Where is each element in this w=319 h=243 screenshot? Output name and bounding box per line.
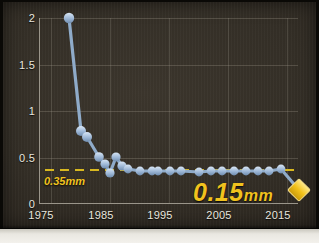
x-tick-2005: 2005	[206, 209, 231, 221]
data-point	[154, 167, 163, 176]
y-tick-2: 2	[29, 12, 35, 24]
y-tick-0-5: 0.5	[19, 152, 35, 164]
x-axis-labels: 1975 1985 1995 2005 2015	[3, 209, 319, 225]
data-point	[195, 168, 204, 177]
data-point	[111, 152, 120, 161]
data-point	[100, 159, 109, 168]
data-point	[277, 165, 286, 174]
screenshot-root: 2 1.5 1 0.5 0	[0, 0, 319, 243]
endpoint-annotation-label: 0.15mm	[193, 178, 273, 207]
data-point	[105, 168, 114, 177]
data-point	[124, 165, 133, 174]
slide-photo-panel: 2 1.5 1 0.5 0	[3, 2, 316, 228]
baseline-annotation-label: 0.35mm	[44, 175, 85, 187]
endpoint-value: 0.15	[193, 178, 244, 206]
data-point	[82, 132, 92, 142]
data-point	[265, 167, 274, 176]
y-axis-labels: 2 1.5 1 0.5 0	[3, 18, 35, 204]
paper-edge	[0, 229, 319, 243]
x-tick-1975: 1975	[28, 209, 53, 221]
y-tick-1-5: 1.5	[19, 59, 35, 71]
data-point	[218, 167, 227, 176]
data-point	[166, 167, 175, 176]
x-tick-2015: 2015	[265, 209, 290, 221]
series-markers	[64, 13, 286, 178]
endpoint-unit: mm	[244, 187, 273, 204]
x-tick-1985: 1985	[88, 209, 113, 221]
y-tick-1: 1	[29, 105, 35, 117]
data-point	[177, 167, 186, 176]
data-point	[207, 167, 216, 176]
data-point	[254, 167, 263, 176]
x-tick-1995: 1995	[147, 209, 172, 221]
data-point	[230, 167, 239, 176]
data-point	[242, 167, 251, 176]
data-point	[64, 13, 74, 23]
data-point	[136, 167, 145, 176]
